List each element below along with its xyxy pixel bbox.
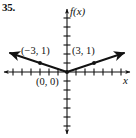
point-label-origin: (0, 0) (36, 76, 59, 87)
math-figure: 35. (0, 0, 136, 138)
coordinate-plane-graph (0, 0, 136, 138)
x-axis-label: x (123, 74, 128, 86)
y-axis-label: f(x) (70, 5, 85, 17)
point-label-left: (−3, 1) (21, 45, 50, 56)
point-marker-3-1 (92, 61, 96, 65)
point-label-right: (3, 1) (72, 45, 95, 56)
point-marker-origin (65, 70, 69, 74)
point-marker-neg3-1 (38, 61, 42, 65)
